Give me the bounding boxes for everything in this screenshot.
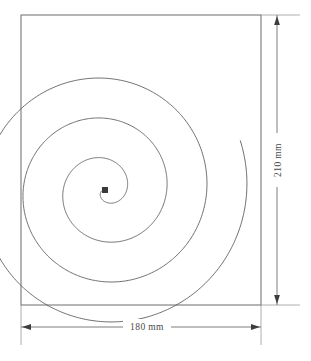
arrow-up-icon xyxy=(274,16,280,25)
technical-drawing-canvas: 210 mm 180 mm xyxy=(0,0,311,361)
spiral-center-marker xyxy=(102,187,108,193)
width-dimension-label: 180 mm xyxy=(130,322,164,332)
height-dimension-label: 210 mm xyxy=(273,143,283,177)
arrow-left-icon xyxy=(22,324,31,330)
arrow-down-icon xyxy=(274,295,280,304)
sheet-outline xyxy=(21,15,261,305)
arrow-right-icon xyxy=(251,324,260,330)
archimedean-spiral-path xyxy=(0,78,247,322)
spiral-drawing-svg: 210 mm 180 mm xyxy=(0,0,311,361)
